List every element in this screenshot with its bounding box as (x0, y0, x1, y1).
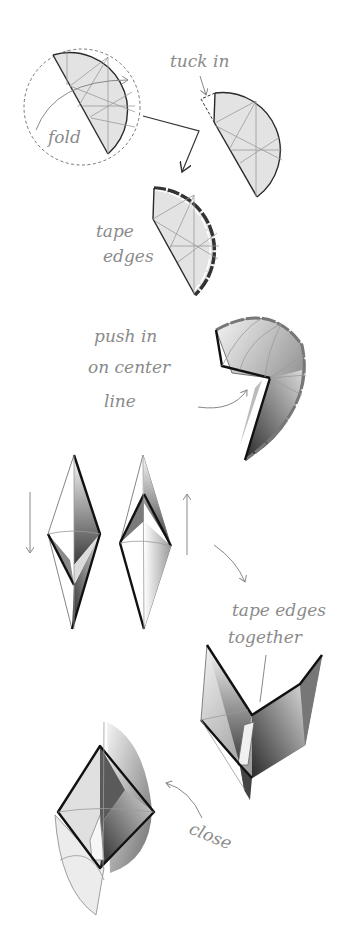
close-label: close (187, 818, 235, 853)
step-arrow-1-to-3 (143, 116, 199, 172)
line-label: line (104, 391, 136, 411)
step-2-tuck-in: tuck in (170, 51, 282, 197)
step-5-diamonds (30, 455, 245, 629)
step-6-tape-edges-together: tape edges together (201, 600, 326, 800)
push-in-label: push in (94, 326, 157, 346)
step-3-tape-edges: tape edges (96, 188, 219, 295)
tape-edges-label: tape edges (232, 600, 326, 620)
on-center-label: on center (88, 357, 171, 377)
together-label: together (228, 627, 303, 647)
step-7-close: close (55, 722, 235, 915)
tuck-in-label: tuck in (170, 51, 229, 71)
step-4-push-in: push in on center line (88, 318, 306, 460)
edges-label: edges (103, 246, 154, 266)
folding-diagram: fold tuck in (0, 0, 347, 944)
tape-label: tape (96, 221, 134, 241)
step-1-fold-circle: fold (24, 49, 140, 165)
fold-label: fold (46, 127, 81, 147)
